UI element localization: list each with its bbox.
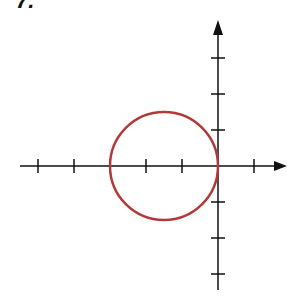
coordinate-plane: [0, 0, 287, 304]
y-axis-arrow-icon: [213, 20, 223, 35]
axes: [20, 20, 287, 290]
x-axis-arrow-icon: [274, 161, 287, 171]
